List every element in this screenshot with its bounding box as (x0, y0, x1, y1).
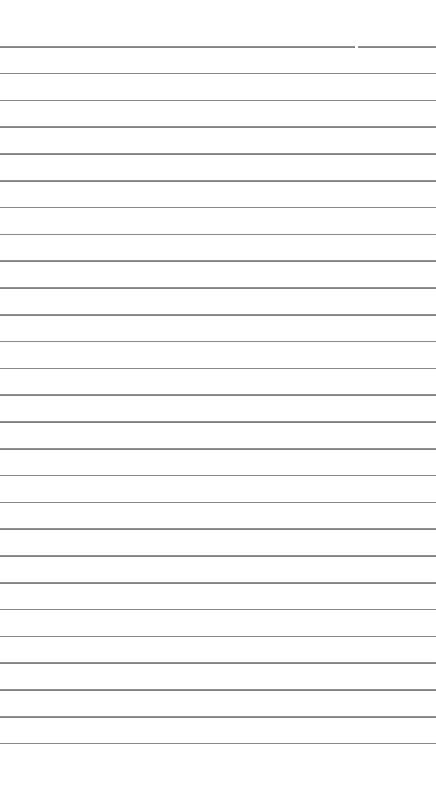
ruled-line (0, 180, 436, 182)
ruled-line (0, 475, 436, 477)
ruled-line (0, 100, 436, 102)
ruled-line (0, 368, 436, 370)
ruled-line (0, 46, 436, 48)
ruled-line (0, 662, 436, 664)
ruled-line (0, 743, 436, 745)
ruled-line (0, 153, 436, 155)
ruled-line (0, 287, 436, 289)
rule-break (355, 45, 358, 49)
ruled-line (0, 448, 436, 450)
lined-paper-page (0, 0, 436, 799)
ruled-line (0, 341, 436, 343)
ruled-line (0, 234, 436, 236)
ruled-line (0, 394, 436, 396)
ruled-line (0, 314, 436, 316)
ruled-line (0, 555, 436, 557)
ruled-line (0, 207, 436, 209)
ruled-line (0, 689, 436, 691)
ruled-line (0, 528, 436, 530)
ruled-line (0, 716, 436, 718)
ruled-line (0, 73, 436, 75)
ruled-line (0, 260, 436, 262)
ruled-line (0, 582, 436, 584)
ruled-line (0, 421, 436, 423)
ruled-line (0, 636, 436, 638)
ruled-line (0, 126, 436, 128)
ruled-line (0, 502, 436, 504)
ruled-line (0, 609, 436, 611)
